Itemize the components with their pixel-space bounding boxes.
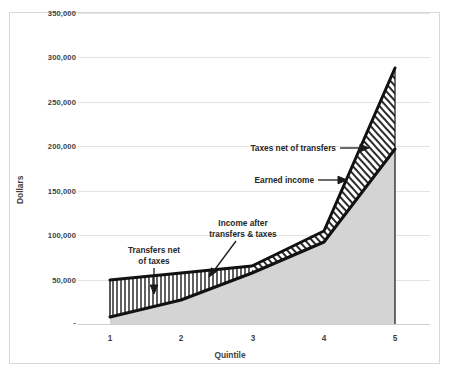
annotation-transfers-net-of-taxes-line2: of taxes [114,256,194,267]
annotation-transfers-net-of-taxes: Transfers net of taxes [114,245,194,267]
chart-figure: 350,000 300,000 250,000 200,000 150,000 … [0,0,451,376]
annotation-income-after-transfers-taxes: Income after transfers & taxes [194,218,292,240]
annotation-earned-income: Earned income [228,175,314,186]
annotation-transfers-net-of-taxes-line1: Transfers net [114,245,194,256]
plot-canvas [0,0,451,376]
annotation-income-after-transfers-taxes-line1: Income after [194,218,292,229]
annotation-earned-income-line1: Earned income [228,175,314,186]
annotation-taxes-net-of-transfers: Taxes net of transfers [220,143,336,154]
annotation-income-after-transfers-taxes-line2: transfers & taxes [194,229,292,240]
annotation-taxes-net-of-transfers-line1: Taxes net of transfers [220,143,336,154]
